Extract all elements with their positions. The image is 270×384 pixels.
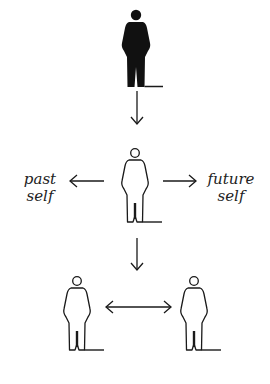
label-future: future bbox=[202, 172, 260, 187]
figure-middle bbox=[122, 149, 162, 222]
figure-bottom-right bbox=[181, 277, 221, 350]
figure-top-filled bbox=[122, 10, 163, 87]
label-future-self-word: self bbox=[202, 189, 260, 204]
arrow-down-top bbox=[131, 91, 143, 124]
figure-bottom-left bbox=[64, 277, 104, 350]
arrow-double-bottom bbox=[106, 301, 171, 313]
arrow-down-middle bbox=[131, 238, 143, 270]
label-past-self-word: self bbox=[18, 189, 62, 204]
arrow-right-future bbox=[163, 175, 196, 187]
label-past: past bbox=[18, 172, 62, 187]
label-past-self: past self bbox=[18, 172, 62, 204]
label-future-self: future self bbox=[202, 172, 260, 204]
arrow-left-past bbox=[70, 175, 104, 187]
